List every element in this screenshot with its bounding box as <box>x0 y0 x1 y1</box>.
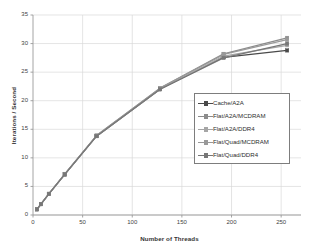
data-point-marker <box>158 88 161 91</box>
legend-item-label: Flat/Quad/DDR4 <box>213 152 258 158</box>
legend-item-label: Cache/A2A <box>213 100 244 106</box>
x-tick-label: 50 <box>73 219 93 225</box>
y-axis-title: Iterations / Second <box>10 66 17 166</box>
x-tick-label: 100 <box>122 219 142 225</box>
y-tick-label: 5 <box>12 182 28 188</box>
data-point-marker <box>222 53 225 56</box>
legend: Cache/A2AFlat/A2A/MCDRAMFlat/A2A/DDR4Fla… <box>194 93 290 164</box>
x-tick-label: 250 <box>271 219 291 225</box>
data-point-marker <box>35 208 38 211</box>
y-tick-label: 0 <box>12 211 28 217</box>
x-tick-label: 150 <box>172 219 192 225</box>
legend-marker-icon <box>198 151 213 160</box>
y-tick-label: 30 <box>12 40 28 46</box>
y-tick-label: 35 <box>12 11 28 17</box>
legend-item-label: Flat/A2A/DDR4 <box>213 126 255 132</box>
legend-item-4[interactable]: Flat/Quad/DDR4 <box>198 149 289 162</box>
data-point-marker <box>95 134 98 137</box>
line-chart: 05101520253035 050100150200250 Iteration… <box>0 0 309 250</box>
legend-item-label: Flat/A2A/MCDRAM <box>213 113 265 119</box>
x-axis-title: Number of Threads <box>0 235 309 242</box>
data-point-marker <box>285 42 288 45</box>
legend-marker-icon <box>198 125 213 134</box>
legend-item-0[interactable]: Cache/A2A <box>198 97 289 110</box>
legend-item-label: Flat/Quad/MCDRAM <box>213 139 269 145</box>
x-tick-label: 0 <box>23 219 43 225</box>
legend-marker-icon <box>198 112 213 121</box>
legend-item-2[interactable]: Flat/A2A/DDR4 <box>198 123 289 136</box>
legend-item-1[interactable]: Flat/A2A/MCDRAM <box>198 110 289 123</box>
data-point-marker <box>63 173 66 176</box>
data-point-marker <box>285 49 288 52</box>
data-point-marker <box>285 38 288 41</box>
data-point-marker <box>47 192 50 195</box>
data-point-marker <box>39 202 42 205</box>
x-tick-label: 200 <box>222 219 242 225</box>
legend-marker-icon <box>198 99 213 108</box>
data-point-marker <box>222 56 225 59</box>
legend-marker-icon <box>198 138 213 147</box>
legend-item-3[interactable]: Flat/Quad/MCDRAM <box>198 136 289 149</box>
